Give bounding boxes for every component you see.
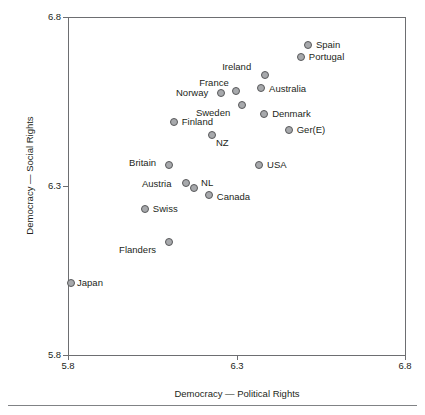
right-axis-line (405, 17, 406, 356)
scatter-plot-figure: 5.86.36.85.86.36.8 SpainPortugalIrelandA… (0, 0, 425, 415)
data-point-label: Finland (182, 117, 213, 127)
data-point-label: NL (201, 178, 213, 188)
data-point[interactable] (285, 126, 293, 134)
data-point[interactable] (297, 53, 305, 61)
y-axis-tick-label: 6.8 (31, 11, 61, 22)
data-point-label: USA (267, 160, 287, 170)
x-axis-tick-label: 5.8 (48, 360, 88, 371)
data-point[interactable] (238, 101, 246, 109)
y-axis-title: Democracy — Social Rights (24, 81, 35, 271)
data-point[interactable] (182, 179, 190, 187)
data-point-label: Austria (142, 179, 172, 189)
data-point-label: Norway (176, 88, 208, 98)
data-point-label: Ireland (222, 62, 251, 72)
x-axis-tick-label: 6.3 (217, 360, 257, 371)
data-point[interactable] (261, 71, 269, 79)
data-point-label: Britain (129, 158, 156, 168)
data-point-label: NZ (216, 138, 229, 148)
x-axis-tick-label: 6.8 (385, 360, 425, 371)
data-point-label: Denmark (272, 109, 311, 119)
data-point-label: Flanders (119, 245, 156, 255)
data-point-label: Swiss (153, 204, 178, 214)
data-point[interactable] (217, 89, 225, 97)
x-axis-title: Democracy — Political Rights (68, 388, 406, 399)
data-point-label: Japan (77, 278, 103, 288)
data-point[interactable] (205, 191, 213, 199)
data-point[interactable] (232, 87, 240, 95)
data-point-label: Ger(E) (297, 125, 326, 135)
y-axis-tick-label: 6.3 (31, 180, 61, 191)
data-point-label: Spain (316, 40, 340, 50)
data-point[interactable] (190, 184, 198, 192)
data-point-label: Australia (269, 84, 306, 94)
footer-divider (8, 405, 417, 406)
data-point[interactable] (304, 41, 312, 49)
data-point[interactable] (257, 84, 265, 92)
data-point-label: Portugal (309, 52, 344, 62)
y-axis-tick (63, 17, 68, 18)
y-axis-tick (63, 186, 68, 187)
data-point-label: Canada (217, 192, 250, 202)
y-axis-tick-label: 5.8 (31, 349, 61, 360)
